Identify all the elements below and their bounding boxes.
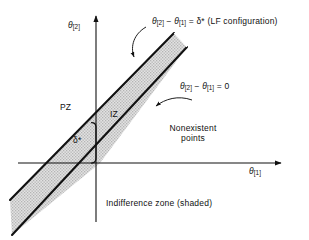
nonexistent-line-1: Nonexistent bbox=[169, 123, 216, 133]
y-axis-label: θ[2] bbox=[68, 21, 80, 31]
label-delta-star: δ* bbox=[73, 136, 81, 146]
equation-zero-difference: θ[2] − θ[1] = 0 bbox=[180, 82, 229, 92]
label-pz: PZ bbox=[60, 103, 71, 113]
leader-arrow-lower bbox=[156, 98, 192, 106]
x-axis-label: θ[1] bbox=[249, 167, 261, 177]
equation-delta-star: θ[2] − θ[1] = δ* (LF configuration) bbox=[152, 17, 278, 27]
label-nonexistent-points: Nonexistent points bbox=[158, 124, 228, 144]
label-iz: IZ bbox=[110, 110, 118, 120]
nonexistent-line-2: points bbox=[181, 133, 205, 143]
figure-caption: Indifference zone (shaded) bbox=[106, 199, 212, 209]
line-delta-star bbox=[10, 33, 174, 200]
leader-arrow-upper bbox=[133, 27, 147, 57]
indifference-zone-figure: θ[2] θ[1] θ[2] − θ[1] = δ* (LF configura… bbox=[0, 0, 309, 240]
